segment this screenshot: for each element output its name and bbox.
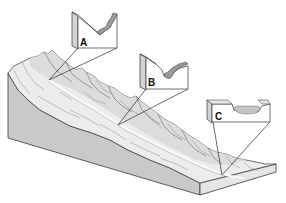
label-b: B [148, 77, 155, 88]
section-c-top-right [258, 100, 270, 104]
section-a-side [72, 12, 78, 49]
label-a: A [80, 37, 87, 48]
section-b-side [140, 54, 146, 90]
river-valley-diagram: A B C [0, 0, 286, 203]
label-c: C [215, 111, 222, 122]
